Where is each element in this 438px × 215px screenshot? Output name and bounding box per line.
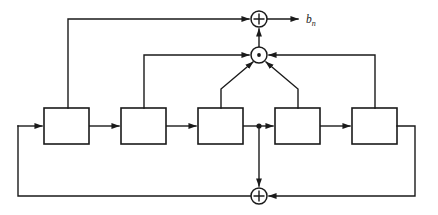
register-stage-2[interactable] [121,108,166,144]
wire-tap-stage2-to-mid-node [144,55,249,108]
wire-tap-stage1-to-top-adder [68,19,249,108]
diagram-canvas: bn [0,0,438,215]
node-top-adder[interactable] [251,11,267,27]
register-stage-1[interactable] [44,108,89,144]
wire-tap-stage4-to-mid-node [266,62,298,108]
node-mid-sum-node[interactable] [251,47,267,63]
wire-tap-stage5-to-mid-node [269,55,375,108]
register-stage-4[interactable] [275,108,320,144]
output-label: bn [306,13,316,28]
node-bottom-adder[interactable] [251,188,267,204]
register-stage-5[interactable] [352,108,397,144]
junction-dot-stage3-tap [256,123,261,128]
register-stage-3[interactable] [198,108,243,144]
output-label-subscript: n [312,19,316,28]
wire-tap-stage3-to-mid-node [221,62,253,108]
shift-register-block-diagram: bn [0,0,438,215]
